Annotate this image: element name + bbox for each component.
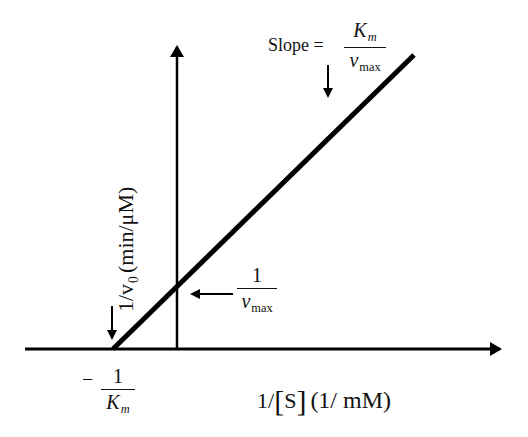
x-intercept-fraction-bar (101, 389, 135, 390)
y-intercept-numerator: 1 (252, 265, 262, 285)
y-intercept-fraction: 1 vmax (237, 265, 277, 315)
x-axis-label-units: (1/ mM) (310, 387, 391, 413)
x-axis-label-bracket-open: [ (274, 384, 284, 417)
plot-canvas (0, 0, 528, 437)
x-intercept-denominator: Km (106, 392, 129, 416)
x-axis-label-bracket-close: ] (296, 384, 306, 417)
slope-fraction: Km vmax (344, 20, 386, 73)
x-intercept-numerator: 1 (113, 366, 123, 386)
x-axis-label-s: S (284, 388, 296, 413)
x-axis-label-main: 1/ (257, 388, 274, 413)
y-axis-label-units: (min/μM) (113, 187, 138, 273)
y-axis-label-main: 1/v (113, 284, 138, 312)
x-intercept-fraction: 1 Km (101, 366, 135, 416)
y-intercept-fraction-bar (237, 288, 277, 289)
y-intercept-denominator: vmax (241, 291, 272, 315)
slope-numerator: Km (353, 20, 376, 44)
slope-denominator: vmax (349, 50, 380, 74)
y-axis-label: 1/v0(min/μM) (113, 187, 142, 312)
x-intercept-sign: − (82, 368, 93, 391)
x-axis-label: 1/[S](1/ mM) (257, 384, 391, 418)
y-axis-label-sub: 0 (126, 276, 141, 283)
slope-fraction-bar (344, 47, 386, 48)
slope-label-prefix: Slope = (268, 35, 324, 56)
